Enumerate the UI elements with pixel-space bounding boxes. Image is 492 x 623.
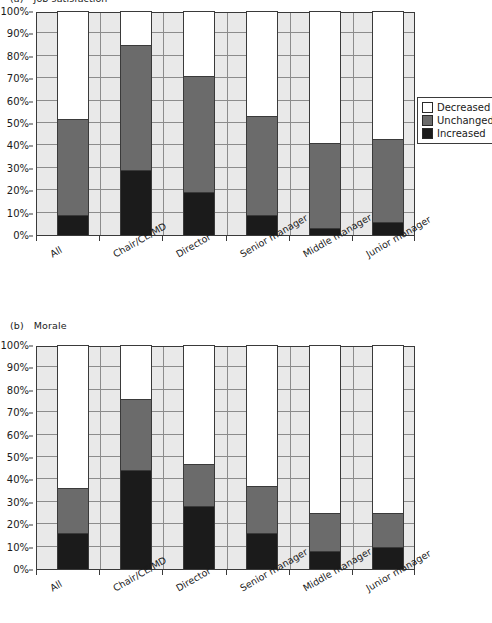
y-tick-label: 80% bbox=[7, 52, 29, 62]
x-axis-labels-b: AllChair/CE/MDDirectorSenior managerMidd… bbox=[36, 574, 476, 623]
y-tick-label: 100% bbox=[0, 341, 29, 351]
stacked-bar bbox=[57, 345, 89, 569]
y-tick-mark bbox=[29, 213, 33, 214]
y-tick-mark bbox=[29, 146, 33, 147]
y-tick-mark bbox=[29, 547, 33, 548]
y-tick-label: 20% bbox=[7, 520, 29, 530]
bar-segment-decreased bbox=[120, 345, 152, 399]
y-tick-mark bbox=[29, 56, 33, 57]
legend-item-decreased: Decreased bbox=[422, 101, 492, 114]
y-axis-b: 0%10%20%30%40%50%60%70%80%90%100% bbox=[0, 346, 33, 570]
y-tick-label: 0% bbox=[13, 231, 29, 241]
x-axis-labels-a: AllChair/CE/MDDirectorSenior managerMidd… bbox=[36, 240, 476, 310]
y-tick-label: 50% bbox=[7, 453, 29, 463]
legend-label: Increased bbox=[437, 128, 486, 139]
legend-swatch-increased-icon bbox=[422, 128, 433, 139]
category-separator bbox=[227, 13, 228, 235]
gridline bbox=[37, 546, 414, 547]
y-tick-mark bbox=[29, 346, 33, 347]
stacked-bar bbox=[372, 11, 404, 235]
y-tick-label: 90% bbox=[7, 29, 29, 39]
category-separator bbox=[163, 13, 164, 235]
legend-a: DecreasedUnchangedIncreased bbox=[417, 97, 492, 144]
bar-segment-decreased bbox=[309, 345, 341, 513]
gridline bbox=[37, 478, 414, 479]
bar-segment-unchanged bbox=[372, 139, 404, 222]
bar-segment-unchanged bbox=[183, 76, 215, 192]
stacked-bar bbox=[246, 345, 278, 569]
y-tick-label: 60% bbox=[7, 431, 29, 441]
y-tick-label: 20% bbox=[7, 186, 29, 196]
legend-label: Decreased bbox=[437, 102, 490, 113]
stacked-bar bbox=[120, 345, 152, 569]
bar-segment-unchanged bbox=[309, 143, 341, 228]
y-tick-label: 30% bbox=[7, 164, 29, 174]
bar-segment-increased bbox=[183, 506, 215, 569]
legend-label: Unchanged bbox=[437, 115, 492, 126]
plot-area-b bbox=[36, 346, 415, 570]
y-tick-label: 10% bbox=[7, 209, 29, 219]
y-tick-mark bbox=[29, 390, 33, 391]
y-tick-mark bbox=[29, 236, 33, 237]
y-tick-mark bbox=[29, 458, 33, 459]
gridline bbox=[37, 523, 414, 524]
stacked-bar bbox=[57, 11, 89, 235]
bar-segment-unchanged bbox=[372, 513, 404, 547]
gridline bbox=[37, 189, 414, 190]
bar-segment-decreased bbox=[246, 11, 278, 116]
bar-segment-increased bbox=[57, 215, 89, 235]
gridline bbox=[37, 144, 414, 145]
panel-a-tag: (a) bbox=[10, 0, 24, 4]
bar-segment-decreased bbox=[183, 345, 215, 464]
bar-segment-unchanged bbox=[120, 399, 152, 471]
bar-segment-increased bbox=[57, 533, 89, 569]
y-tick-mark bbox=[29, 525, 33, 526]
y-tick-mark bbox=[29, 502, 33, 503]
y-tick-label: 0% bbox=[13, 565, 29, 575]
y-tick-mark bbox=[29, 12, 33, 13]
y-tick-label: 90% bbox=[7, 363, 29, 373]
category-separator bbox=[290, 13, 291, 235]
y-tick-label: 40% bbox=[7, 475, 29, 485]
y-tick-label: 70% bbox=[7, 74, 29, 84]
y-tick-mark bbox=[29, 168, 33, 169]
bar-segment-unchanged bbox=[309, 513, 341, 551]
panel-b-tag: (b) bbox=[10, 320, 24, 331]
bar-segment-unchanged bbox=[57, 119, 89, 215]
x-tick-label: All bbox=[48, 244, 64, 259]
gridline bbox=[37, 366, 414, 367]
bar-segment-decreased bbox=[309, 11, 341, 143]
y-axis-a: 0%10%20%30%40%50%60%70%80%90%100% bbox=[0, 12, 33, 236]
bar-segment-decreased bbox=[120, 11, 152, 45]
y-tick-label: 100% bbox=[0, 7, 29, 17]
stacked-bar bbox=[309, 345, 341, 569]
gridline bbox=[37, 32, 414, 33]
y-tick-mark bbox=[29, 413, 33, 414]
bar-segment-decreased bbox=[57, 345, 89, 488]
panel-b-caption: (b)Morale bbox=[10, 320, 67, 331]
gridline bbox=[37, 77, 414, 78]
category-separator bbox=[163, 347, 164, 569]
y-tick-label: 70% bbox=[7, 408, 29, 418]
bar-segment-unchanged bbox=[246, 116, 278, 215]
gridline bbox=[37, 411, 414, 412]
y-tick-mark bbox=[29, 368, 33, 369]
stacked-bar bbox=[120, 11, 152, 235]
x-tick-label: All bbox=[48, 578, 64, 593]
stacked-bar bbox=[246, 11, 278, 235]
category-separator bbox=[227, 347, 228, 569]
bar-segment-decreased bbox=[57, 11, 89, 119]
bar-segment-increased bbox=[120, 170, 152, 235]
legend-swatch-unchanged-icon bbox=[422, 115, 433, 126]
bar-segment-decreased bbox=[372, 345, 404, 513]
bar-segment-unchanged bbox=[120, 45, 152, 170]
panel-a-title: Job satisfaction bbox=[34, 0, 108, 4]
gridline bbox=[37, 167, 414, 168]
legend-swatch-decreased-icon bbox=[422, 102, 433, 113]
stacked-bar bbox=[183, 11, 215, 235]
panel-b-title: Morale bbox=[34, 320, 67, 331]
bar-segment-unchanged bbox=[183, 464, 215, 507]
panel-morale: (b)Morale 0%10%20%30%40%50%60%70%80%90%1… bbox=[0, 318, 492, 623]
category-separator bbox=[353, 347, 354, 569]
y-tick-mark bbox=[29, 480, 33, 481]
